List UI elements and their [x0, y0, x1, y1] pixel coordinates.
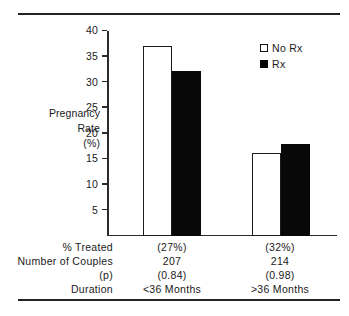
y-tick-20: 20: [102, 132, 107, 134]
annotation-row-label: % Treated: [0, 240, 113, 254]
y-tick-label-35: 35: [86, 51, 98, 62]
annotation-row-label: Duration: [0, 282, 113, 296]
annotation-cell: (0.84): [117, 268, 227, 282]
y-tick-5: 5: [102, 209, 107, 211]
bar-no-rx-group-1: [143, 46, 172, 236]
y-tick-35: 35: [102, 55, 107, 57]
annotation-row-label: Number of Couples: [0, 254, 113, 268]
annotation-cell: 214: [225, 254, 335, 268]
y-tick-15: 15: [102, 158, 107, 160]
y-tick-40: 40: [102, 30, 107, 32]
annotation-cell: (27%): [117, 240, 227, 254]
y-tick-30: 30: [102, 81, 107, 83]
annotation-table: % Treated(27%)(32%)Number of Couples2072…: [0, 240, 349, 296]
y-tick-label-40: 40: [86, 25, 98, 36]
annotation-row: (p)(0.84)(0.98): [0, 268, 349, 282]
annotation-row: Duration<36 Months>36 Months: [0, 282, 349, 296]
annotation-row-label: (p): [0, 268, 113, 282]
bar-rx-group-1: [172, 71, 201, 236]
bar-no-rx-group-2: [252, 153, 281, 236]
annotation-row: Number of Couples207214: [0, 254, 349, 268]
y-tick-25: 25: [102, 106, 107, 108]
plot-area: 510152025303540: [107, 31, 329, 236]
annotation-row: % Treated(27%)(32%): [0, 240, 349, 254]
y-tick-label-10: 10: [86, 179, 98, 190]
annotation-cell: 207: [117, 254, 227, 268]
annotation-cell: (32%): [225, 240, 335, 254]
figure: Pregnancy Rate (%) No Rx Rx 510152025303…: [0, 0, 349, 316]
y-axis-line: [107, 31, 109, 236]
y-tick-label-15: 15: [86, 153, 98, 164]
y-tick-10: 10: [102, 183, 107, 185]
annotation-cell: <36 Months: [117, 282, 227, 296]
annotation-cell: >36 Months: [225, 282, 335, 296]
y-tick-label-5: 5: [92, 204, 98, 215]
y-tick-label-30: 30: [86, 76, 98, 87]
y-tick-label-20: 20: [86, 128, 98, 139]
bottom-rule: [18, 299, 340, 301]
annotation-cell: (0.98): [225, 268, 335, 282]
y-tick-label-25: 25: [86, 102, 98, 113]
bar-rx-group-2: [281, 144, 310, 236]
top-rule: [18, 13, 340, 15]
